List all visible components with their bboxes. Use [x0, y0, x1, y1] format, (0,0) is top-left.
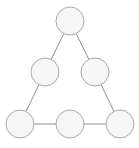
graph-node-circle-apex[interactable] — [56, 7, 84, 35]
triangle-graph-figure — [0, 0, 139, 148]
graph-node-apex[interactable] — [56, 7, 84, 35]
graph-node-base-right[interactable] — [106, 110, 134, 138]
graph-node-circle-mid-left[interactable] — [31, 58, 59, 86]
graph-node-mid-left[interactable] — [31, 58, 59, 86]
graph-node-mid-right[interactable] — [81, 58, 109, 86]
graph-node-circle-base-left[interactable] — [6, 110, 34, 138]
graph-node-circle-base-center[interactable] — [56, 110, 84, 138]
graph-edge-apex-mid-right — [76, 34, 89, 60]
graph-node-base-left[interactable] — [6, 110, 34, 138]
node-layer — [6, 7, 134, 138]
graph-node-circle-base-right[interactable] — [106, 110, 134, 138]
graph-node-circle-mid-right[interactable] — [81, 58, 109, 86]
graph-edge-mid-left-base-left — [26, 85, 39, 112]
graph-edge-mid-right-base-right — [101, 85, 114, 112]
graph-edge-apex-mid-left — [51, 34, 64, 60]
graph-node-base-center[interactable] — [56, 110, 84, 138]
graph-canvas — [0, 0, 139, 148]
